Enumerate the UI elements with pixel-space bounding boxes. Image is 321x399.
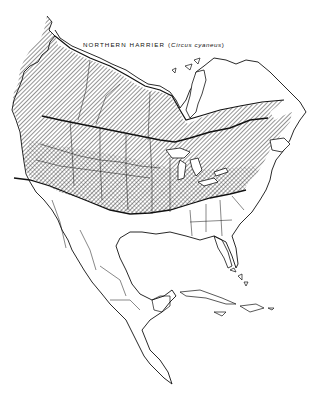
hudson-bay xyxy=(186,70,206,118)
map-title: NORTHERN HARRIER (Circus cyaneus) xyxy=(83,41,225,48)
species-common-name: NORTHERN HARRIER xyxy=(83,41,165,48)
title-paren-close: ) xyxy=(222,41,225,48)
caribbean-islands xyxy=(180,268,274,316)
newfoundland xyxy=(270,138,290,152)
arctic-islands xyxy=(172,58,200,73)
range-map: NORTHERN HARRIER (Circus cyaneus) xyxy=(0,0,321,399)
north-america-map xyxy=(0,0,321,399)
species-scientific-name: Circus cyaneus xyxy=(171,41,222,48)
yucatan-peninsula xyxy=(152,296,170,312)
